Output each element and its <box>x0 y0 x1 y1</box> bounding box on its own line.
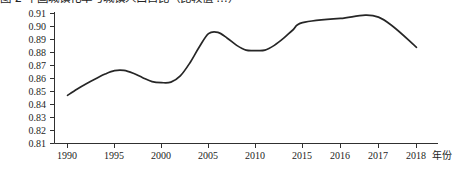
plot-area: 0.91 0.90 0.89 0.88 0.87 0.86 0.85 0.84 … <box>0 0 459 182</box>
x-tick-label: 2010 <box>235 150 275 161</box>
y-tick-label: 0.84 <box>16 100 46 110</box>
y-tick-label: 0.88 <box>16 48 46 58</box>
x-tick-label: 1990 <box>47 150 87 161</box>
x-tick-label: 1995 <box>94 150 134 161</box>
y-tick-label: 0.87 <box>16 61 46 71</box>
y-tick-label: 0.90 <box>16 22 46 32</box>
y-tick-label: 0.85 <box>16 87 46 97</box>
x-tick-label: 2016 <box>320 150 360 161</box>
y-axis-ticks <box>50 14 55 144</box>
x-tick-label: 2000 <box>141 150 181 161</box>
x-tick-label: 2018 <box>396 150 436 161</box>
y-tick-label: 0.91 <box>16 9 46 19</box>
y-tick-label: 0.81 <box>16 139 46 149</box>
x-axis-title: 年份 <box>432 150 452 161</box>
y-tick-label: 0.89 <box>16 35 46 45</box>
chart-screenshot: 图 2 中国城镇化率与城镇人口占比（比较值 …） <box>0 0 459 182</box>
x-tick-label: 2017 <box>358 150 398 161</box>
x-axis-ticks <box>68 144 417 149</box>
x-tick-label: 2005 <box>188 150 228 161</box>
y-tick-label: 0.83 <box>16 113 46 123</box>
y-tick-label: 0.86 <box>16 74 46 84</box>
data-series-line <box>68 15 417 95</box>
x-tick-label: 2015 <box>282 150 322 161</box>
y-tick-label: 0.82 <box>16 126 46 136</box>
